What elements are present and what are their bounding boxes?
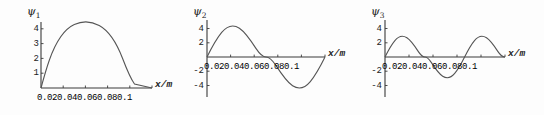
x-tick-label-0.02: 0.02 xyxy=(37,93,57,103)
y-tick-label-2: 2 xyxy=(29,55,39,64)
x-tick-label-0.08: 0.08 xyxy=(97,93,117,103)
y-axis-title-psi2: ψ2 xyxy=(193,6,206,20)
x-tick-label-row-psi3: 0.02 0.04 0.06 0.08 0.1 xyxy=(382,62,477,72)
y-axis-title-psi3: ψ3 xyxy=(371,6,384,20)
y-tick-label-4: 4 xyxy=(193,25,204,34)
x-tick-label-0.1: 0.1 xyxy=(284,62,299,72)
x-tick-label-0.06: 0.06 xyxy=(244,62,264,72)
y-tick-label-4: 4 xyxy=(371,25,382,34)
x-axis-title-psi2: x/m xyxy=(328,49,345,59)
x-tick-label-0.04: 0.04 xyxy=(224,62,244,72)
plot-panel-psi2: ψ2 4 2 -2 -4 0.02 0.04 0.06 0.08 0.1 x/m xyxy=(185,0,363,115)
x-tick-label-row-psi2: 0.02 0.04 0.06 0.08 0.1 xyxy=(204,62,299,72)
y-tick-label-minus2: -2 xyxy=(187,67,204,76)
x-tick-label-0.02: 0.02 xyxy=(382,62,402,72)
y-tick-label-4: 4 xyxy=(29,25,39,34)
x-tick-label-0.1: 0.1 xyxy=(462,62,477,72)
y-axis-subscript: 1 xyxy=(36,11,41,20)
plot-panel-psi1: ψ1 4 3 2 1 0.02 0.04 0.06 0.08 0.1 x/m xyxy=(0,0,185,115)
x-tick-label-0.1: 0.1 xyxy=(117,93,132,103)
x-tick-label-0.08: 0.08 xyxy=(264,62,284,72)
y-tick-label-2: 2 xyxy=(193,39,204,48)
y-axis-subscript: 3 xyxy=(380,11,385,20)
x-axis-title-psi1: x/m xyxy=(155,80,172,90)
y-tick-label-2: 2 xyxy=(371,39,382,48)
plot-panel-psi3: ψ3 4 2 -2 -4 0.02 0.04 0.06 0.08 0.1 x/m xyxy=(363,0,544,115)
y-tick-label-1: 1 xyxy=(29,69,39,78)
y-tick-label-3: 3 xyxy=(29,40,39,49)
x-tick-label-0.04: 0.04 xyxy=(402,62,422,72)
y-axis-subscript: 2 xyxy=(202,11,207,20)
wavefunction-figure-strip: ψ1 4 3 2 1 0.02 0.04 0.06 0.08 0.1 x/m xyxy=(0,0,544,115)
y-tick-label-minus4: -4 xyxy=(187,82,204,91)
y-tick-label-minus4: -4 xyxy=(365,82,382,91)
x-tick-label-0.06: 0.06 xyxy=(422,62,442,72)
x-tick-label-0.06: 0.06 xyxy=(77,93,97,103)
x-tick-label-0.08: 0.08 xyxy=(442,62,462,72)
curve-psi1 xyxy=(41,22,152,88)
y-axis-title-psi1: ψ1 xyxy=(27,6,40,20)
y-tick-label-minus2: -2 xyxy=(365,67,382,76)
x-axis-title-psi3: x/m xyxy=(508,49,525,59)
x-tick-label-row-psi1: 0.02 0.04 0.06 0.08 0.1 xyxy=(37,93,132,103)
x-tick-label-0.02: 0.02 xyxy=(204,62,224,72)
x-tick-label-0.04: 0.04 xyxy=(57,93,77,103)
